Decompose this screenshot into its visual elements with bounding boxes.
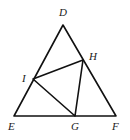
label-e: E [7, 120, 15, 132]
label-f: F [111, 120, 119, 132]
label-i: I [21, 72, 27, 84]
geometry-diagram: D E F G H I [0, 0, 130, 140]
label-d: D [58, 6, 67, 18]
triangle-def [14, 25, 116, 116]
label-g: G [71, 120, 79, 132]
label-h: H [88, 50, 98, 62]
